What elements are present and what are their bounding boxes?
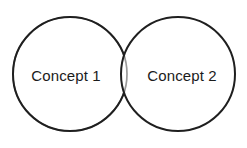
- venn-diagram: Concept 1 Concept 2: [0, 0, 247, 148]
- right-set-label: Concept 2: [147, 68, 216, 83]
- left-set-label: Concept 1: [31, 68, 100, 83]
